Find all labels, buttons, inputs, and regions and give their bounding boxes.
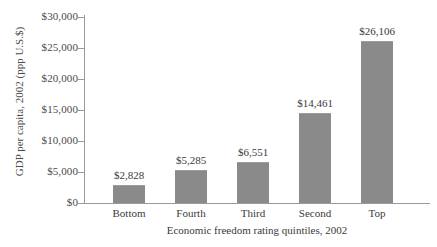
x-axis-title: Economic freedom rating quintiles, 2002 — [84, 224, 430, 236]
bar[interactable] — [237, 162, 269, 203]
plot-area: $2,828$5,285$6,551$14,461$26,106 — [84, 17, 429, 203]
x-axis-category-label: Top — [346, 207, 408, 219]
bar-value-label: $6,551 — [216, 147, 290, 158]
bar-group: $14,461 — [284, 17, 346, 203]
bar-value-label: $26,106 — [340, 26, 414, 37]
bar-group: $26,106 — [346, 17, 408, 203]
bar-group: $6,551 — [222, 17, 284, 203]
bar-chart: $30,000$25,000$20,000$15,000$10,000$5,00… — [0, 0, 437, 247]
bar[interactable] — [175, 170, 207, 203]
bar[interactable] — [113, 185, 145, 203]
bar-group: $5,285 — [160, 17, 222, 203]
bar[interactable] — [299, 113, 331, 203]
x-axis-category-label: Third — [222, 207, 284, 219]
x-axis-category-label: Bottom — [98, 207, 160, 219]
x-axis-category-label: Fourth — [160, 207, 222, 219]
y-axis-tick-label-wrap: $0 — [0, 197, 78, 208]
x-axis-line — [84, 203, 430, 204]
y-axis-tick — [78, 203, 85, 204]
bar-group: $2,828 — [98, 17, 160, 203]
y-axis-tick-label-wrap: $30,000 — [0, 11, 78, 22]
bar[interactable] — [361, 41, 393, 203]
y-axis-tick-label: $0 — [4, 197, 78, 208]
bar-value-label: $2,828 — [92, 170, 166, 181]
bar-value-label: $14,461 — [278, 98, 352, 109]
y-axis-title: GDP per capita, 2002 (ppp U.S.$) — [14, 7, 25, 197]
x-axis-category-label: Second — [284, 207, 346, 219]
